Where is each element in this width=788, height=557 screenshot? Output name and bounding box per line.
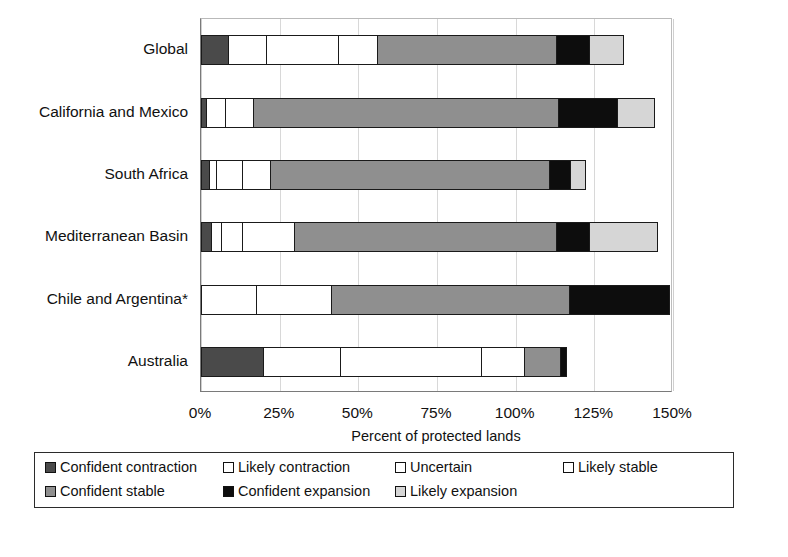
x-axis-ticks: 0%25%50%75%100%125%150% [200,404,672,426]
category-label: Global [143,41,188,57]
bar-segment-uncertain [256,285,332,315]
legend-item-confident-stable[interactable]: Confident stable [45,484,165,499]
legend-item-uncertain[interactable]: Uncertain [395,460,472,475]
legend-item-likely-expansion[interactable]: Likely expansion [395,484,517,499]
legend-row-2: Confident stableConfident expansionLikel… [35,480,733,504]
x-axis-title: Percent of protected lands [200,428,672,444]
bar-row [201,35,624,65]
legend-swatch-icon [563,462,574,473]
bar-segment-likely-stable [242,222,295,252]
gridline-75pct [437,19,438,391]
bar-segment-confident-expansion [558,98,618,128]
gridline-125pct [594,19,595,391]
x-tick-label: 125% [574,404,614,422]
legend-label: Likely stable [578,460,658,475]
bar-row [201,285,670,315]
bar-segment-likely-expansion [589,35,624,65]
legend-label: Confident expansion [238,484,370,499]
legend-label: Likely contraction [238,460,350,475]
bar-segment-uncertain [221,222,243,252]
bar-row [201,98,655,128]
bar-segment-likely-expansion [589,222,658,252]
legend-item-confident-expansion[interactable]: Confident expansion [223,484,370,499]
x-tick-label: 150% [652,404,692,422]
bar-segment-confident-contraction [201,347,264,377]
x-tick-label: 0% [189,404,211,422]
bar-segment-confident-expansion [560,347,566,377]
legend-item-likely-stable[interactable]: Likely stable [563,460,658,475]
bar-segment-confident-stable [270,160,550,190]
legend-swatch-icon [395,462,406,473]
category-label: South Africa [104,166,188,182]
legend-label: Confident stable [60,484,165,499]
bar-segment-likely-expansion [570,160,586,190]
plot-wrapper: GlobalCalifornia and MexicoSouth AfricaM… [0,8,788,400]
legend-item-likely-contraction[interactable]: Likely contraction [223,460,350,475]
bar-segment-confident-stable [253,98,560,128]
category-label: California and Mexico [39,104,188,120]
legend-label: Likely expansion [410,484,517,499]
gridline-150pct [673,19,674,391]
legend-label: Uncertain [410,460,472,475]
legend-swatch-icon [223,462,234,473]
category-label: Chile and Argentina* [47,291,188,307]
bar-segment-confident-expansion [556,35,591,65]
bar-segment-likely-contraction [228,35,267,65]
legend-swatch-icon [45,462,56,473]
gridline-100pct [516,19,517,391]
bar-segment-confident-stable [331,285,570,315]
plot-area [200,18,672,392]
gridline-50pct [358,19,359,391]
bar-segment-likely-stable [338,35,379,65]
legend-swatch-icon [395,486,406,497]
category-label: Australia [128,353,188,369]
bar-row [201,347,567,377]
bar-segment-uncertain [266,35,338,65]
legend-row-1: Confident contractionLikely contractionU… [35,456,733,480]
chart-figure: GlobalCalifornia and MexicoSouth AfricaM… [0,0,788,557]
legend-item-confident-contraction[interactable]: Confident contraction [45,460,197,475]
x-tick-label: 75% [420,404,451,422]
category-label: Mediterranean Basin [45,228,188,244]
bar-segment-likely-contraction [201,285,258,315]
bar-segment-confident-stable [377,35,556,65]
legend-label: Confident contraction [60,460,197,475]
gridline-25pct [280,19,281,391]
legend: Confident contractionLikely contractionU… [34,452,734,508]
bar-segment-confident-expansion [556,222,591,252]
bar-segment-likely-expansion [617,98,655,128]
bar-segment-confident-stable [524,347,562,377]
bar-segment-uncertain [225,98,253,128]
bar-segment-confident-expansion [549,160,571,190]
x-tick-label: 25% [263,404,294,422]
bar-segment-likely-stable [242,160,272,190]
bar-segment-confident-contraction [201,35,229,65]
category-axis-labels: GlobalCalifornia and MexicoSouth AfricaM… [0,8,196,392]
x-tick-label: 50% [342,404,373,422]
bar-segment-uncertain [340,347,482,377]
bar-segment-confident-stable [294,222,557,252]
legend-swatch-icon [223,486,234,497]
bar-row [201,222,658,252]
gridline-0pct [201,19,202,391]
bar-segment-likely-stable [481,347,525,377]
bar-segment-likely-contraction [263,347,342,377]
legend-swatch-icon [45,486,56,497]
bar-row [201,160,586,190]
bar-segment-likely-contraction [206,98,226,128]
bar-segment-confident-expansion [569,285,670,315]
x-tick-label: 100% [495,404,535,422]
bar-segment-uncertain [216,160,243,190]
